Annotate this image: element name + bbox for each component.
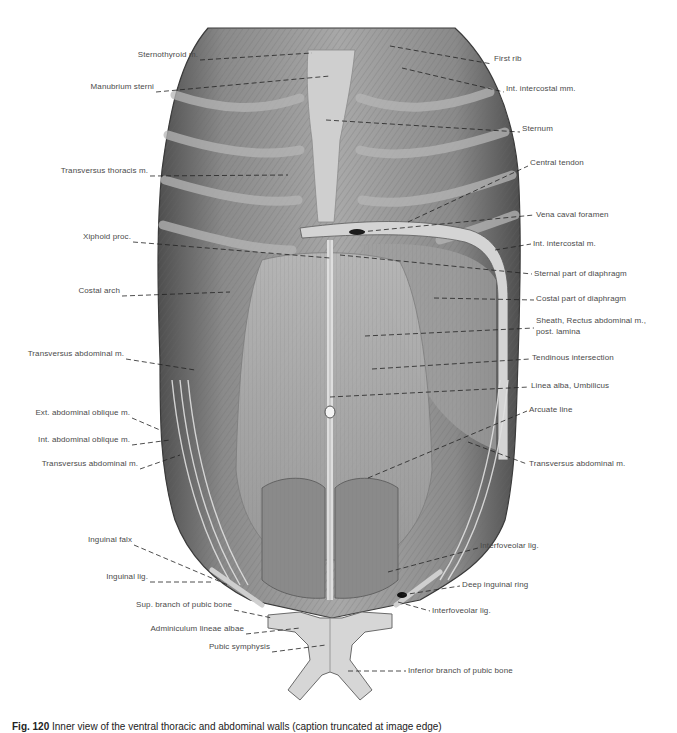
- label-central-tendon: Central tendon: [530, 158, 584, 168]
- label-costal-part-diaphragm: Costal part of diaphragm: [536, 294, 626, 304]
- label-inguinal-lig: Inguinal lig.: [106, 572, 148, 582]
- label-adminiculum-lineae-albae: Adminiculum lineae albae: [150, 624, 244, 634]
- label-first-rib: First rib: [494, 54, 522, 64]
- label-sheath-rectus-abdominal: Sheath, Rectus abdominal m.,: [536, 316, 646, 326]
- label-inferior-branch-pubic-bone: Inferior branch of pubic bone: [408, 666, 513, 676]
- label-pubic-symphysis: Pubic symphysis: [209, 642, 270, 652]
- caption-number: Fig. 120: [12, 721, 49, 732]
- label-transversus-abdominal-m-right: Transversus abdominal m.: [529, 459, 625, 469]
- label-tendinous-intersection: Tendinous intersection: [532, 353, 614, 363]
- label-vena-caval-foramen: Vena caval foramen: [536, 210, 609, 220]
- figure-caption: Fig. 120 Inner view of the ventral thora…: [12, 721, 442, 733]
- label-deep-inguinal-ring: Deep inguinal ring: [462, 580, 528, 590]
- label-interfoveolar-lig-upper: Interfoveolar lig.: [480, 541, 539, 551]
- label-sternothyroid-m: Sternothyroid m.: [138, 50, 198, 60]
- label-xiphoid-proc: Xiphoid proc.: [83, 232, 131, 242]
- umbilicus: [325, 406, 335, 418]
- label-interfoveolar-lig-lower: Interfoveolar lig.: [432, 606, 491, 616]
- label-transversus-abdominal-m-lower-left: Transversus abdominal m.: [42, 459, 138, 469]
- label-sup-branch-pubic-bone: Sup. branch of pubic bone: [136, 600, 232, 610]
- label-transversus-abdominal-m-upper: Transversus abdominal m.: [28, 349, 124, 359]
- label-int-intercostal-m: Int. intercostal m.: [533, 239, 596, 249]
- label-manubrium-sterni: Manubrium sterni: [91, 82, 154, 92]
- caption-text: Inner view of the ventral thoracic and a…: [52, 721, 442, 732]
- label-int-intercostal-mm: Int. intercostal mm.: [506, 84, 576, 94]
- label-transversus-thoracis-m: Transversus thoracis m.: [61, 166, 148, 176]
- label-arcuate-line: Arcuate line: [529, 405, 572, 415]
- label-costal-arch: Costal arch: [78, 286, 120, 296]
- label-post-lamina: post. lamina: [536, 327, 580, 337]
- label-int-abdominal-oblique-m: Int. abdominal oblique m.: [38, 435, 130, 445]
- label-ext-abdominal-oblique-m: Ext. abdominal oblique m.: [35, 408, 130, 418]
- label-inguinal-falx: Inguinal falx: [88, 535, 132, 545]
- label-sternal-part-diaphragm: Sternal part of diaphragm: [534, 269, 627, 279]
- label-sternum: Sternum: [522, 124, 553, 134]
- label-linea-alba-umbilicus: Linea alba, Umbilicus: [531, 381, 609, 391]
